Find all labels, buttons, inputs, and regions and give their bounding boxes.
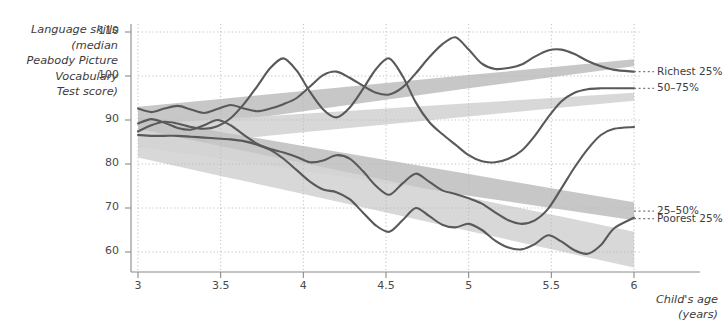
- x-tick-label-4: 4: [288, 279, 318, 292]
- legend-label-4: Poorest 25%: [657, 212, 723, 224]
- y-tick-label-80: 80: [93, 156, 119, 169]
- x-tick-label-6: 6: [619, 279, 649, 292]
- legend-label-2: 50–75%: [657, 81, 699, 93]
- y-axis-label-line-2: (median: [0, 38, 118, 54]
- x-tick-label-4-5: 4.5: [371, 279, 401, 292]
- legend-leader-lines: [634, 72, 654, 219]
- y-axis-label-line-5: Test score): [0, 84, 118, 100]
- y-tick-label-70: 70: [93, 200, 119, 213]
- y-tick-label-60: 60: [93, 244, 119, 257]
- y-tick-label-100: 100: [93, 68, 119, 81]
- x-tick-label-3: 3: [123, 279, 153, 292]
- y-tick-label-90: 90: [93, 112, 119, 125]
- x-axis-label-line-2: (years): [575, 307, 718, 322]
- confidence-bands: [138, 59, 634, 267]
- x-axis-label: Child's age (years): [575, 292, 718, 322]
- y-tick-label-110: 110: [93, 24, 119, 37]
- x-axis-label-line-1: Child's age: [575, 292, 718, 307]
- chart-container: Language skills (median Peabody Picture …: [0, 0, 725, 335]
- x-tick-label-5: 5: [454, 279, 484, 292]
- x-tick-label-5-5: 5.5: [536, 279, 566, 292]
- legend-label-1: Richest 25%: [657, 65, 722, 77]
- y-axis-label-line-3: Peabody Picture: [0, 53, 118, 69]
- x-tick-label-3-5: 3.5: [206, 279, 236, 292]
